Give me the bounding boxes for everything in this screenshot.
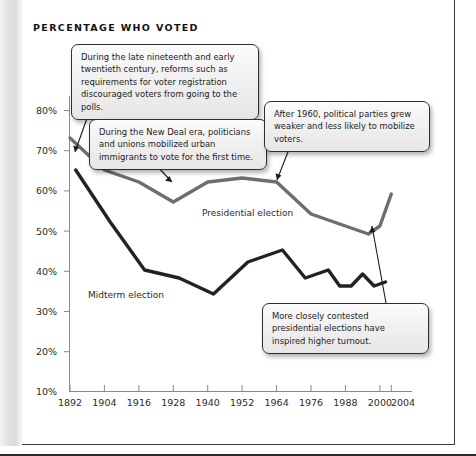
x-tick-label: 1976	[299, 397, 323, 408]
x-tick-label: 2004	[391, 397, 415, 408]
x-tick-label: 1964	[265, 397, 289, 408]
callout-reforms: During the late nineteenth and early twe…	[71, 44, 259, 120]
series-label-midterm: Midterm election	[88, 290, 164, 300]
y-tick-label: 20%	[36, 346, 57, 357]
x-axis-ticks: 1892 1904 1916 1928 1940 1952 1964 1976 …	[58, 385, 415, 408]
leader-arrow-new-deal	[165, 176, 172, 182]
leader-arrow-parties-weaker	[276, 173, 282, 180]
y-tick-label: 30%	[36, 306, 57, 317]
x-tick-label: 1952	[230, 397, 254, 408]
x-tick-label: 1988	[333, 397, 357, 408]
x-tick-label: 1928	[161, 397, 185, 408]
series-line-midterm	[76, 170, 386, 294]
callout-new-deal: During the New Deal era, politicians and…	[89, 119, 267, 170]
x-tick-label: 1904	[92, 397, 116, 408]
x-tick-label: 1916	[127, 397, 151, 408]
x-tick-label: 1892	[58, 397, 82, 408]
y-tick-label: 80%	[36, 105, 57, 116]
y-axis-ticks: 80% 70% 60% 50% 40% 30% 20% 10%	[36, 105, 70, 397]
x-tick-label: 2000	[368, 397, 392, 408]
y-tick-label: 60%	[36, 185, 57, 196]
chart-page: PERCENTAGE WHO VOTED 80% 70% 60% 50% 40%…	[0, 0, 476, 456]
series-label-presidential: Presidential election	[202, 208, 293, 218]
callout-contested: More closely contested presidential elec…	[262, 303, 429, 354]
y-tick-label: 10%	[36, 386, 57, 397]
y-tick-label: 40%	[36, 266, 57, 277]
callout-parties-weaker: After 1960, political parties grew weake…	[264, 101, 430, 152]
leader-line-contested	[372, 226, 386, 303]
x-tick-label: 1940	[196, 397, 220, 408]
y-tick-label: 70%	[36, 145, 57, 156]
y-tick-label: 50%	[36, 226, 57, 237]
